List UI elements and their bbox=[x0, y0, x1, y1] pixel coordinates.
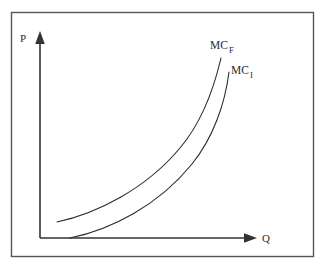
curve-label-mc-f-subscript: F bbox=[229, 45, 234, 55]
marginal-cost-diagram: P Q MC F MC I bbox=[0, 0, 328, 273]
figure-root: P Q MC F MC I bbox=[0, 0, 328, 273]
y-axis-label: P bbox=[20, 32, 26, 44]
curve-label-mc-f-main: MC bbox=[210, 39, 228, 51]
curve-label-mc-i-subscript: I bbox=[250, 70, 253, 80]
figure-background bbox=[0, 0, 328, 273]
x-axis-label: Q bbox=[262, 232, 270, 244]
curve-label-mc-i-main: MC bbox=[231, 64, 249, 76]
